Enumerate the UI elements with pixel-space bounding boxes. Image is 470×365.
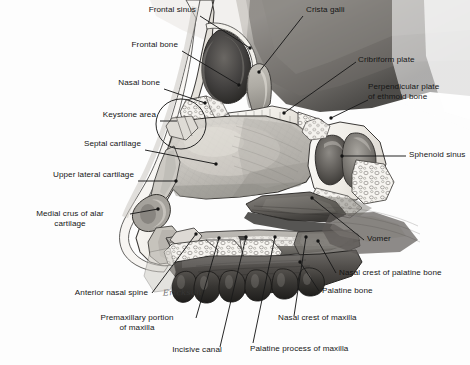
label-cribriform-plate: Cribriform plate bbox=[358, 55, 415, 65]
label-nasal-bone: Nasal bone bbox=[118, 78, 160, 88]
label-vomer: Vomer bbox=[367, 234, 391, 244]
label-palatine-process-of-maxilla: Palatine process of maxilla bbox=[250, 344, 348, 354]
label-nasal-crest-of-palatine-bone: Nasal crest of palatine bone bbox=[339, 268, 442, 278]
label-frontal-sinus: Frontal sinus bbox=[149, 5, 196, 15]
label-keystone-area: Keystone area bbox=[103, 110, 156, 120]
label-septal-cartilage: Septal cartilage bbox=[84, 139, 141, 149]
label-perpendicular-plate-of-ethmoid-bone: Perpendicular plate of ethmoid bone bbox=[368, 82, 439, 103]
label-nasal-crest-of-maxilla: Nasal crest of maxilla bbox=[278, 313, 357, 323]
label-sphenoid-sinus: Sphenoid sinus bbox=[409, 150, 465, 160]
label-incisive-canal: Incisive canal bbox=[162, 345, 232, 355]
label-anterior-nasal-spine: Anterior nasal spine bbox=[75, 288, 148, 298]
label-palatine-bone: Palatine bone bbox=[322, 286, 373, 296]
label-frontal-bone: Frontal bone bbox=[132, 40, 178, 50]
artist-signature: Erickson bbox=[163, 287, 202, 297]
sphenoid-spongy-bone bbox=[352, 160, 394, 204]
anatomical-figure: Erickson Frontal sinus Frontal bone Nasa… bbox=[0, 0, 470, 365]
label-premaxillary-portion-of-maxilla: Premaxillary portion of maxilla bbox=[77, 313, 197, 334]
label-crista-galli: Crista galli bbox=[306, 5, 345, 15]
label-upper-lateral-cartilage: Upper lateral cartilage bbox=[53, 170, 134, 180]
label-medial-crus-of-alar-cartilage: Medial crus of alar cartilage bbox=[10, 209, 130, 230]
